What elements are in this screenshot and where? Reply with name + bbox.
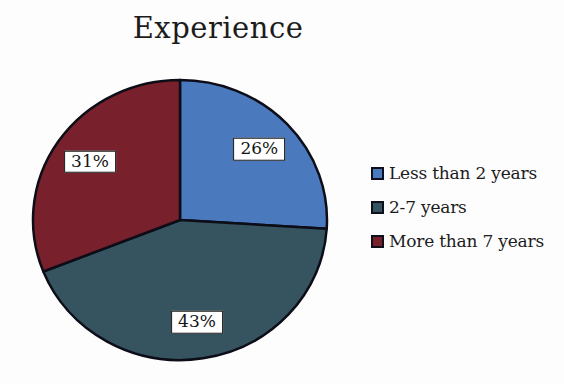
legend-item: More than 7 years (371, 224, 544, 258)
legend-label: More than 7 years (389, 231, 544, 251)
legend-item: Less than 2 years (371, 156, 544, 190)
legend: Less than 2 years2-7 yearsMore than 7 ye… (371, 156, 544, 258)
chart-title: Experience (0, 11, 436, 45)
chart-canvas: Experience 26%43%31% Less than 2 years2-… (0, 0, 564, 384)
legend-item: 2-7 years (371, 190, 544, 224)
legend-swatch-icon (371, 235, 384, 248)
slice-percent-label: 26% (233, 138, 285, 161)
slice-percent-label: 43% (171, 311, 223, 334)
slice-percent-label: 31% (64, 151, 116, 174)
legend-label: Less than 2 years (389, 163, 537, 183)
legend-swatch-icon (371, 167, 384, 180)
legend-swatch-icon (371, 201, 384, 214)
legend-label: 2-7 years (389, 197, 467, 217)
